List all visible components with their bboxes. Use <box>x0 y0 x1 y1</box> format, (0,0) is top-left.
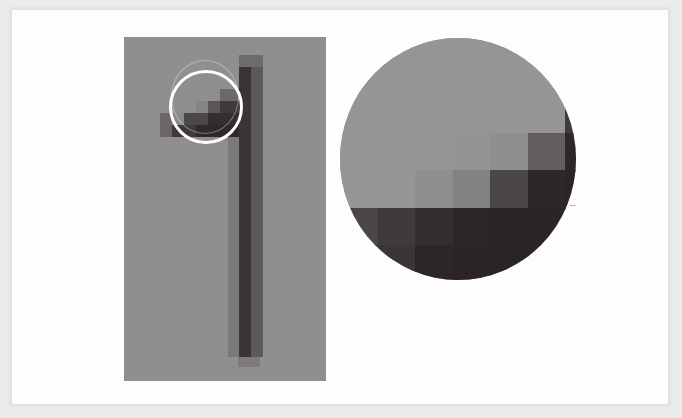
magnified-pixel <box>490 133 529 172</box>
magnified-pixel <box>378 245 417 280</box>
magnified-pixel <box>490 58 529 97</box>
magnified-pixel <box>415 208 454 247</box>
magnified-pixel <box>565 208 576 247</box>
magnified-pixel <box>415 133 454 172</box>
magnified-pixel <box>340 58 379 97</box>
magnified-pixel <box>378 208 417 247</box>
magnified-pixel <box>490 38 529 59</box>
pixel-block <box>228 137 239 357</box>
magnified-pixel <box>453 208 492 247</box>
magnified-pixel <box>415 58 454 97</box>
magnified-pixel <box>453 95 492 134</box>
magnified-pixel <box>490 170 529 209</box>
magnified-pixel <box>340 170 379 209</box>
magnified-pixel <box>378 58 417 97</box>
pixel-block <box>239 55 263 67</box>
magnified-pixel <box>453 170 492 209</box>
magnified-pixel <box>453 245 492 280</box>
magnified-pixel <box>528 95 567 134</box>
magnified-pixel <box>565 133 576 172</box>
magnified-pixel <box>340 38 379 59</box>
magnified-pixel <box>528 38 567 59</box>
magnified-pixel <box>490 208 529 247</box>
magnified-pixel <box>340 133 379 172</box>
magnified-pixel <box>340 208 379 247</box>
magnified-pixel <box>528 133 567 172</box>
pixel-block <box>251 67 263 357</box>
magnified-pixel <box>490 95 529 134</box>
magnified-pixel <box>415 95 454 134</box>
magnified-pixel <box>528 208 567 247</box>
magnified-pixel <box>453 38 492 59</box>
magnified-pixel <box>415 38 454 59</box>
magnified-pixel <box>340 95 379 134</box>
magnified-pixel <box>415 170 454 209</box>
magnified-pixel <box>528 170 567 209</box>
magnified-pixel <box>565 58 576 97</box>
edge-mark <box>570 205 576 206</box>
magnified-pixel <box>378 170 417 209</box>
magnifier-circle <box>169 70 243 144</box>
magnified-pixel <box>340 245 379 280</box>
magnified-pixel <box>453 133 492 172</box>
magnified-pixel <box>565 38 576 59</box>
magnified-pixel <box>565 95 576 134</box>
magnified-pixel <box>565 245 576 280</box>
magnified-inset <box>340 38 576 280</box>
magnified-pixel <box>565 170 576 209</box>
magnified-pixel <box>378 95 417 134</box>
magnified-pixel <box>490 245 529 280</box>
pixel-block <box>238 357 260 367</box>
magnified-pixel <box>378 133 417 172</box>
magnified-pixel <box>378 38 417 59</box>
magnified-pixel <box>415 245 454 280</box>
magnified-pixel <box>528 58 567 97</box>
magnified-pixel <box>528 245 567 280</box>
magnified-pixel <box>453 58 492 97</box>
